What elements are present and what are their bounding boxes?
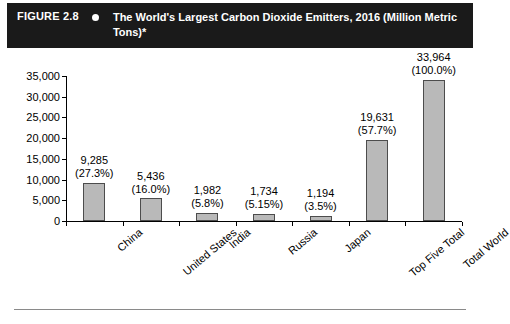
x-axis-tick-mark [236, 222, 237, 226]
plot-area: 9,285(27.3%)5,436(16.0%)1,982(5.8%)1,734… [66, 76, 462, 222]
y-axis-tick-labels: 05,00010,00015,00020,00025,00030,00035,0… [8, 52, 60, 222]
bar-value-label: 1,982(5.8%) [191, 184, 223, 210]
bar-chart: 05,00010,00015,00020,00025,00030,00035,0… [0, 52, 480, 302]
x-axis-tick-mark [123, 222, 124, 226]
x-axis-category-label: Total World [461, 226, 510, 270]
bar-value-percent: (3.5%) [304, 200, 336, 213]
x-axis-tick-mark [66, 222, 67, 226]
x-axis-category-label: Top Five Total [407, 226, 467, 279]
x-axis-category-label: Russia [286, 226, 319, 257]
bar-group: 9,285(27.3%) [66, 76, 123, 221]
bar-value-percent: (100.0%) [411, 64, 456, 77]
bar-value-number: 1,982 [191, 184, 223, 197]
bar[interactable] [253, 214, 275, 221]
bar-group: 19,631(57.7%) [349, 76, 406, 221]
bar-value-number: 33,964 [411, 51, 456, 64]
bar-value-label: 1,734(5.15%) [245, 185, 284, 211]
y-axis-tick-label: 30,000 [26, 91, 60, 103]
bar-value-number: 1,194 [304, 187, 336, 200]
bar-value-number: 9,285 [75, 154, 114, 167]
figure-number-label: FIGURE 2.8 [17, 10, 79, 22]
x-axis-tick-mark [405, 222, 406, 226]
x-axis-tick-mark [349, 222, 350, 226]
bar-value-label: 5,436(16.0%) [132, 170, 171, 196]
x-axis-line [66, 221, 462, 222]
bar-value-label: 19,631(57.7%) [358, 111, 397, 137]
x-axis-category-label: Japan [342, 226, 373, 254]
bar-group: 33,964(100.0%) [405, 76, 462, 221]
bar-value-percent: (16.0%) [132, 183, 171, 196]
bar-value-percent: (57.7%) [358, 124, 397, 137]
bar[interactable] [83, 183, 105, 221]
y-axis-tick-label: 20,000 [26, 132, 60, 144]
figure-header-bar: FIGURE 2.8 The World's Largest Carbon Di… [7, 3, 473, 48]
bar-group: 1,194(3.5%) [292, 76, 349, 221]
y-axis-tick-label: 15,000 [26, 153, 60, 165]
bar[interactable] [310, 216, 332, 221]
bar-value-label: 33,964(100.0%) [411, 51, 456, 77]
bar[interactable] [196, 213, 218, 221]
bar-value-label: 1,194(3.5%) [304, 187, 336, 213]
x-axis-category-label: China [115, 226, 145, 254]
bar-value-percent: (27.3%) [75, 167, 114, 180]
bar-group: 1,734(5.15%) [236, 76, 293, 221]
bar-value-number: 5,436 [132, 170, 171, 183]
bar-value-number: 1,734 [245, 185, 284, 198]
bottom-divider [14, 309, 466, 310]
bullet-dot-icon [92, 14, 99, 21]
bar-value-percent: (5.15%) [245, 198, 284, 211]
bar-group: 1,982(5.8%) [179, 76, 236, 221]
x-axis-category-label: United States [180, 226, 238, 278]
y-axis-tick-label: 10,000 [26, 174, 60, 186]
bar-value-number: 19,631 [358, 111, 397, 124]
bar-group: 5,436(16.0%) [123, 76, 180, 221]
x-axis-tick-mark [179, 222, 180, 226]
figure-title-text: The World's Largest Carbon Dioxide Emitt… [113, 10, 465, 40]
y-axis-tick-label: 35,000 [26, 70, 60, 82]
bar[interactable] [423, 80, 445, 221]
y-axis-tick-label: 25,000 [26, 111, 60, 123]
x-axis-tick-mark [462, 222, 463, 226]
bar[interactable] [366, 140, 388, 221]
y-axis-tick-label: 0 [54, 215, 60, 227]
bar-value-label: 9,285(27.3%) [75, 154, 114, 180]
y-axis-tick-label: 5,000 [32, 194, 60, 206]
bar[interactable] [140, 198, 162, 221]
bar-value-percent: (5.8%) [191, 197, 223, 210]
x-axis-tick-mark [292, 222, 293, 226]
